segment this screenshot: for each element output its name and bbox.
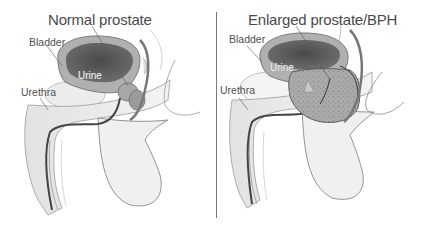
urine-label: Urine bbox=[270, 62, 294, 73]
urethra-label: Urethra bbox=[220, 84, 255, 96]
bladder-label: Bladder bbox=[229, 33, 265, 45]
normal-prostate-illustration bbox=[0, 0, 212, 228]
urethra-label: Urethra bbox=[21, 86, 56, 98]
normal-prostate-title: Normal prostate bbox=[48, 11, 152, 28]
panel-normal-prostate: Normal prostate Bladder Urine Urethra bbox=[0, 0, 212, 228]
enlarged-prostate-title: Enlarged prostate/BPH bbox=[248, 11, 397, 28]
urine-label: Urine bbox=[78, 70, 102, 81]
bladder-label: Bladder bbox=[29, 36, 65, 48]
panel-enlarged-prostate: Enlarged prostate/BPH Bladder Urine Uret… bbox=[212, 0, 424, 228]
